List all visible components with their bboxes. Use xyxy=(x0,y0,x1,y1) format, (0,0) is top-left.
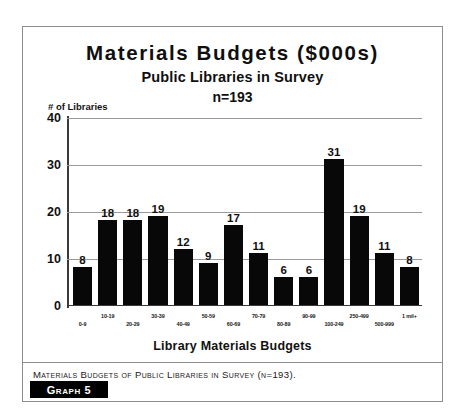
bar-slot: 11 xyxy=(246,117,271,305)
bar xyxy=(73,267,92,305)
bar xyxy=(224,225,243,305)
bar-series: 81818191291711663119118 xyxy=(70,117,422,305)
x-tick-label: 10-19 xyxy=(84,313,132,319)
chart-frame: Materials Budgets ($000s) Public Librari… xyxy=(22,26,443,363)
bar xyxy=(148,216,167,305)
x-tick-label: 80-89 xyxy=(260,321,308,327)
bar xyxy=(98,220,117,305)
bar xyxy=(274,277,293,305)
bar-value-label: 18 xyxy=(120,207,145,219)
chart-title: Materials Budgets ($000s) xyxy=(23,41,442,65)
bar-slot: 11 xyxy=(372,117,397,305)
bar-value-label: 11 xyxy=(372,240,397,252)
bar xyxy=(174,249,193,305)
x-tick-label: 50-59 xyxy=(184,313,232,319)
x-tick-label: 0-9 xyxy=(59,321,107,327)
bar-slot: 6 xyxy=(296,117,321,305)
bar-slot: 8 xyxy=(397,117,422,305)
bar-slot: 19 xyxy=(145,117,170,305)
bar xyxy=(123,220,142,305)
bar xyxy=(400,267,419,305)
x-tick-label: 250-499 xyxy=(335,313,383,319)
bar-value-label: 19 xyxy=(347,203,372,215)
bar-slot: 6 xyxy=(271,117,296,305)
bar xyxy=(249,253,268,305)
x-tick-label: 30-39 xyxy=(134,313,182,319)
bar-value-label: 18 xyxy=(95,207,120,219)
bar-slot: 31 xyxy=(321,117,346,305)
bar-value-label: 17 xyxy=(221,212,246,224)
bar-value-label: 31 xyxy=(321,146,346,158)
bar-slot: 18 xyxy=(95,117,120,305)
bar-value-label: 6 xyxy=(271,264,296,276)
x-tick-label: 90-99 xyxy=(285,313,333,319)
bar xyxy=(350,216,369,305)
bar-slot: 9 xyxy=(196,117,221,305)
y-tick-label: 30 xyxy=(47,158,61,172)
figure-caption: Materials Budgets of Public Libraries in… xyxy=(33,369,296,380)
bar-value-label: 19 xyxy=(145,203,170,215)
bar-value-label: 9 xyxy=(196,250,221,262)
bar xyxy=(199,263,218,305)
x-tick-label: 1 mil+ xyxy=(386,313,434,319)
graph-number-tag: Graph 5 xyxy=(30,381,108,398)
bar-slot: 18 xyxy=(120,117,145,305)
bar-slot: 12 xyxy=(171,117,196,305)
bar-slot: 17 xyxy=(221,117,246,305)
y-tick-label: 20 xyxy=(47,205,61,219)
bar xyxy=(299,277,318,305)
plot-area: 010203040 81818191291711663119118 xyxy=(67,118,422,306)
x-tick-label: 40-49 xyxy=(159,321,207,327)
x-tick-label: 60-69 xyxy=(210,321,258,327)
bar-value-label: 11 xyxy=(246,240,271,252)
figure-page: Materials Budgets ($000s) Public Librari… xyxy=(0,0,466,415)
bar xyxy=(324,159,343,305)
bar-slot: 19 xyxy=(347,117,372,305)
x-tick-label: 70-79 xyxy=(235,313,283,319)
x-tick-label: 20-29 xyxy=(109,321,157,327)
y-tick-label: 10 xyxy=(47,252,61,266)
bar-value-label: 8 xyxy=(70,254,95,266)
x-axis-title: Library Materials Budgets xyxy=(23,339,442,353)
bar xyxy=(375,253,394,305)
bar-value-label: 8 xyxy=(397,254,422,266)
bar-slot: 8 xyxy=(70,117,95,305)
x-tick-label: 500-999 xyxy=(360,321,408,327)
y-tick-label: 0 xyxy=(54,299,61,313)
chart-subtitle: Public Libraries in Survey xyxy=(23,69,442,85)
bar-value-label: 6 xyxy=(296,264,321,276)
y-tick-label: 40 xyxy=(47,111,61,125)
bar-value-label: 12 xyxy=(171,236,196,248)
x-tick-label: 100-249 xyxy=(310,321,358,327)
